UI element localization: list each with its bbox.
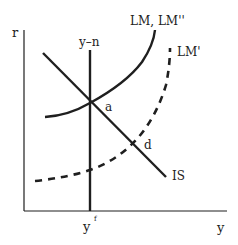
vertical-line-label: y–n [78, 35, 100, 49]
yf-tick-label: y [82, 219, 91, 234]
is-label: IS [172, 169, 185, 183]
point-d-label: d [144, 138, 152, 152]
r-axis-label: r [12, 25, 19, 40]
lm-prime-label: LM' [177, 45, 201, 59]
y-axis-label: y [216, 220, 225, 235]
lm-label: LM, LM'' [130, 14, 185, 28]
yf-tick-superscript: f [94, 215, 98, 223]
point-a-label: a [105, 100, 112, 114]
is-lm-diagram: r y y f y–n LM, LM'' LM' IS a d [0, 0, 238, 245]
lm-curve [45, 30, 155, 117]
